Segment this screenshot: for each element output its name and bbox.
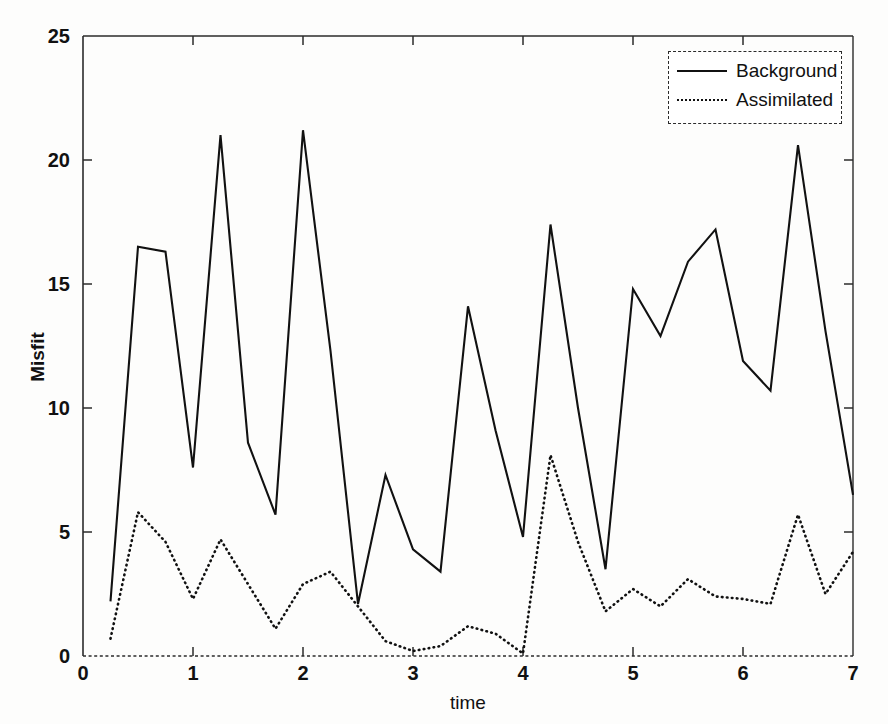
y-tick-label-15: 15 <box>10 273 70 296</box>
legend: Background Assimilated <box>668 51 842 124</box>
x-tick-label-7: 7 <box>847 662 858 685</box>
x-tick-label-3: 3 <box>407 662 418 685</box>
y-tick-label-20: 20 <box>10 149 70 172</box>
x-tick-label-4: 4 <box>517 662 528 685</box>
legend-entry-background: Background <box>677 56 837 86</box>
series-line-background <box>111 130 854 604</box>
x-axis-title: time <box>450 692 486 714</box>
x-tick-label-0: 0 <box>77 662 88 685</box>
y-tick-label-0: 0 <box>10 645 70 668</box>
legend-label-assimilated: Assimilated <box>736 89 833 111</box>
legend-swatch-dotted-line-icon <box>677 99 727 101</box>
chart-figure: 0 5 10 15 20 25 0 1 2 3 4 5 6 7 time Mis… <box>0 0 888 724</box>
x-tick-label-6: 6 <box>737 662 748 685</box>
x-tick-label-1: 1 <box>187 662 198 685</box>
series-line-assimilated <box>111 455 854 653</box>
x-tick-label-5: 5 <box>627 662 638 685</box>
y-tick-label-25: 25 <box>10 25 70 48</box>
x-tick-label-2: 2 <box>297 662 308 685</box>
y-tick-label-5: 5 <box>10 521 70 544</box>
y-axis-title: Misfit <box>27 297 49 417</box>
legend-entry-assimilated: Assimilated <box>677 85 833 115</box>
legend-swatch-solid-line-icon <box>677 70 727 72</box>
axis-frame <box>83 36 853 656</box>
legend-label-background: Background <box>736 60 837 82</box>
tick-marks <box>83 36 853 656</box>
